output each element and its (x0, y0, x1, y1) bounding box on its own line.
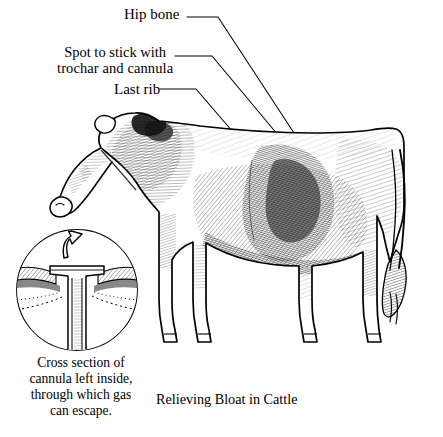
inset-caption-line-2: cannula left inside, (8, 371, 154, 387)
callout-label-hip-bone: Hip bone (124, 6, 179, 23)
inset-caption-line-1: Cross section of (8, 355, 154, 371)
callout-label-spot-line1: Spot to stick with (64, 44, 166, 60)
cow-head (50, 116, 115, 217)
callout-label-spot-to-stick: Spot to stick with trochar and cannula (57, 44, 173, 76)
hip-bone-leader-line (187, 17, 294, 133)
inset-caption-line-3: through which gas (8, 387, 154, 403)
figure-caption: Relieving Bloat in Cattle (156, 391, 297, 408)
bloat-relief-figure: Hip bone Spot to stick with trochar and … (0, 0, 443, 437)
inset-caption-line-4: can escape. (8, 403, 154, 419)
callout-label-last-rib: Last rib (114, 81, 160, 98)
callout-label-spot-line2: trochar and cannula (57, 60, 173, 76)
inset-caption: Cross section of cannula left inside, th… (8, 355, 154, 419)
cannula-inset-diagram (15, 228, 141, 354)
